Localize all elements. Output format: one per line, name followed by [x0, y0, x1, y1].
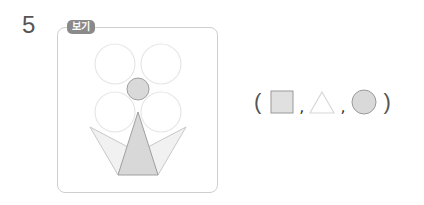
circle-choice-icon[interactable]: [350, 88, 378, 116]
flower-center-circle: [127, 78, 149, 100]
center-triangle: [118, 112, 158, 175]
separator: ,: [340, 97, 345, 116]
close-paren: ): [384, 89, 391, 115]
triangle-choice-icon[interactable]: [308, 89, 336, 115]
petal-circle-bottom-right: [141, 92, 181, 132]
answer-choices: ( , , ): [254, 88, 391, 116]
separator: ,: [299, 97, 304, 116]
petal-circle-top-right: [141, 44, 181, 84]
petal-circle-top-left: [95, 44, 135, 84]
open-paren: (: [254, 89, 261, 115]
petal-circle-bottom-left: [95, 92, 135, 132]
square-choice-icon[interactable]: [269, 89, 295, 115]
